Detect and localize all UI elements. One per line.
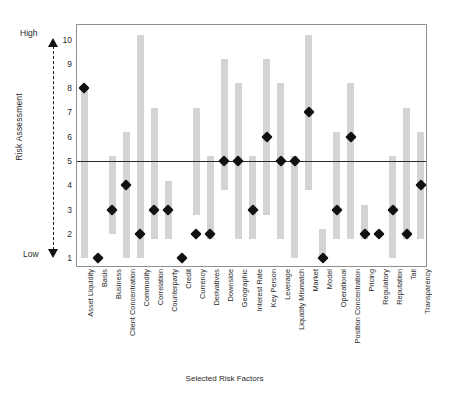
x-axis-label: Selected Risk Factors <box>0 374 449 383</box>
x-tick-label: Regulatory <box>381 269 390 305</box>
x-tick-label: Counterparty <box>170 269 179 312</box>
range-bar <box>123 132 130 258</box>
x-tick-label: Position Concentration <box>353 269 362 343</box>
reference-line <box>77 161 426 162</box>
y-axis-high-label: High <box>20 28 37 38</box>
y-tick-label: 4 <box>67 180 72 190</box>
x-tick-label: Pricing <box>367 269 376 292</box>
range-bar <box>249 156 256 239</box>
x-tick-label: Interest Rate <box>255 269 264 311</box>
x-tick-label: Credit <box>184 269 193 289</box>
x-tick-label: Leverage <box>283 269 292 300</box>
y-tick-label: 8 <box>67 83 72 93</box>
x-tick-label: Derivatives <box>212 269 221 306</box>
y-tick-label: 3 <box>67 205 72 215</box>
x-tick-label: Currency <box>198 269 207 299</box>
range-bar <box>221 59 228 190</box>
range-bar <box>333 132 340 239</box>
assessment-marker <box>373 228 384 239</box>
x-tick-label: Tail <box>409 269 418 280</box>
range-bar <box>137 35 144 259</box>
plot-area: 12345678910 <box>76 24 427 267</box>
x-tick-label: Correlation <box>156 269 165 305</box>
x-tick-label: Model <box>325 269 334 289</box>
x-tick-label: Asset Liquidity <box>86 269 95 317</box>
x-tick-label: Market <box>311 269 320 292</box>
y-tick-label: 9 <box>67 59 72 69</box>
y-tick-label: 6 <box>67 132 72 142</box>
assessment-marker <box>191 228 202 239</box>
x-tick-label: Geographic <box>240 269 249 307</box>
x-tick-label: Commodity <box>142 269 151 306</box>
arrow-shaft <box>53 46 54 250</box>
x-tick-label: Client Concentration <box>128 269 137 336</box>
range-bar <box>207 156 214 239</box>
low-high-arrow <box>46 36 62 260</box>
range-bar <box>151 108 158 239</box>
x-tick-label: Operational <box>339 269 348 307</box>
arrow-down-icon <box>48 249 58 258</box>
range-bar <box>109 156 116 234</box>
x-tick-label: Downside <box>226 269 235 301</box>
x-tick-label: Business <box>114 269 123 299</box>
range-bar <box>403 108 410 239</box>
x-tick-label: Basis <box>100 269 109 287</box>
y-tick-label: 1 <box>67 253 72 263</box>
y-axis-low-label: Low <box>23 249 39 259</box>
assessment-marker <box>92 253 103 264</box>
x-tick-label: Liquidity Mismatch <box>297 269 306 330</box>
y-tick-label: 10 <box>63 35 72 45</box>
range-bar <box>81 88 88 258</box>
y-tick-label: 2 <box>67 229 72 239</box>
y-tick-label: 7 <box>67 107 72 117</box>
plot-inner: 12345678910 <box>77 25 426 266</box>
x-tick-label: Reputation <box>395 269 404 305</box>
range-bar <box>291 156 298 258</box>
risk-assessment-chart: Risk Assessment High Low 12345678910 Ass… <box>0 0 449 397</box>
y-tick-label: 5 <box>67 156 72 166</box>
assessment-marker <box>177 253 188 264</box>
x-tick-labels: Asset LiquidityBasisBusinessClient Conce… <box>76 269 427 369</box>
x-tick-label: Key Person <box>269 269 278 307</box>
y-axis-label: Risk Assessment <box>14 82 24 172</box>
x-tick-label: Transparency <box>423 269 432 314</box>
